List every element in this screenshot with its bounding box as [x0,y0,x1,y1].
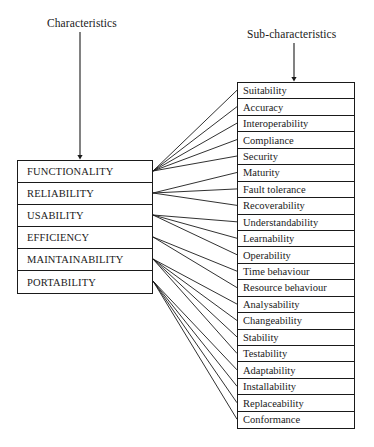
subcharacteristic-row-stability: Stability [238,330,354,346]
subcharacteristic-label: Replaceability [243,398,304,409]
subcharacteristic-row-accuracy: Accuracy [238,99,354,115]
characteristic-row-functionality: FUNCTIONALITY [18,161,152,183]
subcharacteristic-row-adaptability: Adaptability [238,362,354,378]
subcharacteristic-row-conformance: Conformance [238,412,354,428]
subcharacteristic-label: Adaptability [243,365,296,376]
subcharacteristic-row-learnability: Learnability [238,231,354,247]
subcharacteristic-row-fault-tolerance: Fault tolerance [238,182,354,198]
connector-portability-to-replaceability [153,281,237,403]
connector-reliability-to-fault-tolerance [153,189,237,193]
subcharacteristic-row-recoverability: Recoverability [238,198,354,214]
subcharacteristic-label: Fault tolerance [243,184,306,195]
connector-usability-to-understandability [153,215,237,222]
subcharacteristic-row-understandability: Understandability [238,215,354,231]
connector-functionality-to-accuracy [153,107,237,171]
subcharacteristic-label: Maturity [243,167,280,178]
subcharacteristic-row-time-behaviour: Time behaviour [238,264,354,280]
characteristic-label: EFFICIENCY [27,232,89,243]
fan-connectors [153,90,237,419]
connector-efficiency-to-resource-behaviour [153,237,237,288]
iso9126-quality-model-diagram: Characteristics Sub-characteristics FUNC… [0,0,374,447]
subcharacteristic-label: Resource behaviour [243,282,327,293]
characteristic-label: USABILITY [27,210,84,221]
connector-reliability-to-recoverability [153,193,237,205]
subcharacteristic-row-operability: Operability [238,247,354,263]
connector-portability-to-installability [153,281,237,386]
connector-functionality-to-security [153,156,237,171]
characteristic-row-reliability: RELIABILITY [18,183,152,205]
subcharacteristic-row-analysability: Analysability [238,297,354,313]
subcharacteristic-label: Learnability [243,233,294,244]
characteristics-arrow-label: Characteristics [47,17,117,30]
characteristic-label: MAINTAINABILITY [27,254,123,265]
connector-functionality-to-suitability [153,90,237,171]
subcharacteristic-label: Analysability [243,299,300,310]
subcharacteristic-label: Accuracy [243,102,283,113]
connector-reliability-to-maturity [153,172,237,193]
connector-efficiency-to-time-behaviour [153,237,237,271]
connector-functionality-to-compliance [153,140,237,171]
connector-portability-to-conformance [153,281,237,419]
characteristics-box: FUNCTIONALITYRELIABILITYUSABILITYEFFICIE… [17,160,153,294]
subcharacteristic-label: Changeability [243,315,302,326]
subcharacteristic-row-changeability: Changeability [238,313,354,329]
subcharacteristic-label: Security [243,151,278,162]
characteristic-row-usability: USABILITY [18,205,152,227]
subcharacteristic-label: Conformance [243,414,300,425]
characteristic-label: RELIABILITY [27,188,94,199]
subcharacteristic-row-compliance: Compliance [238,132,354,148]
connector-usability-to-operability [153,215,237,255]
connector-portability-to-adaptability [153,281,237,370]
characteristic-label: FUNCTIONALITY [27,166,114,177]
subcharacteristic-label: Time behaviour [243,266,309,277]
subcharacteristic-row-maturity: Maturity [238,165,354,181]
subcharacteristic-row-testability: Testability [238,346,354,362]
characteristic-row-maintainability: MAINTAINABILITY [18,249,152,271]
subcharacteristic-row-installability: Installability [238,379,354,395]
subcharacteristic-label: Interoperability [243,118,308,129]
subcharacteristic-row-replaceability: Replaceability [238,395,354,411]
subcharacteristic-row-suitability: Suitability [238,83,354,99]
subcharacteristic-row-resource-behaviour: Resource behaviour [238,280,354,296]
subcharacteristic-label: Stability [243,332,279,343]
subcharacteristic-label: Understandability [243,217,318,228]
subcharacteristic-label: Recoverability [243,200,305,211]
connector-maintainability-to-testability [153,259,237,353]
subcharacteristic-label: Suitability [243,85,287,96]
subcharacteristic-row-interoperability: Interoperability [238,116,354,132]
connector-maintainability-to-analysability [153,259,237,304]
characteristic-label: PORTABILITY [27,277,96,288]
subcharacteristic-label: Compliance [243,135,294,146]
subcharacteristic-label: Testability [243,348,287,359]
characteristic-row-portability: PORTABILITY [18,271,152,293]
subcharacteristic-label: Operability [243,250,291,261]
subcharacteristics-box: SuitabilityAccuracyInteroperabilityCompl… [237,82,355,429]
subcharacteristics-arrow-label: Sub-characteristics [247,28,336,41]
connector-functionality-to-interoperability [153,123,237,171]
connector-maintainability-to-changeability [153,259,237,321]
subcharacteristic-row-security: Security [238,149,354,165]
characteristic-row-efficiency: EFFICIENCY [18,227,152,249]
connector-maintainability-to-stability [153,259,237,337]
connector-usability-to-learnability [153,215,237,238]
subcharacteristic-label: Installability [243,381,296,392]
